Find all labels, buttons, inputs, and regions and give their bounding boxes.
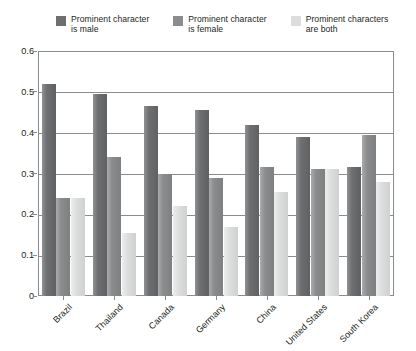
chart-legend: Prominent character is male Prominent ch… bbox=[56, 14, 408, 35]
bar-group bbox=[144, 51, 187, 296]
bar bbox=[144, 106, 158, 296]
x-tick-label: Canada bbox=[147, 302, 176, 331]
legend-item-male: Prominent character is male bbox=[56, 14, 173, 35]
x-tick-mark bbox=[216, 296, 217, 300]
bar bbox=[56, 198, 70, 296]
y-tick-mark bbox=[33, 173, 37, 174]
y-tick-label: 0 bbox=[2, 291, 34, 301]
y-tick-label: 0.2 bbox=[2, 209, 34, 219]
x-tick-label: China bbox=[254, 302, 278, 326]
bar bbox=[209, 178, 223, 296]
y-axis: 0.60.50.40.30.20.10 bbox=[0, 51, 34, 296]
legend-label-male: Prominent character is male bbox=[71, 14, 149, 35]
legend-swatch-female bbox=[173, 16, 183, 26]
bar bbox=[325, 169, 339, 296]
bar bbox=[376, 182, 390, 296]
bar-group bbox=[93, 51, 136, 296]
y-tick-label: 0.4 bbox=[2, 128, 34, 138]
bar bbox=[173, 206, 187, 296]
bar bbox=[71, 198, 85, 296]
x-tick-label: Thailand bbox=[94, 302, 125, 333]
x-tick-mark bbox=[165, 296, 166, 300]
bar bbox=[107, 157, 121, 296]
bar bbox=[122, 233, 136, 296]
x-tick-mark bbox=[63, 296, 64, 300]
legend-label-female: Prominent character is female bbox=[188, 14, 266, 35]
x-tick-label: Germany bbox=[194, 302, 227, 335]
legend-item-both: Prominent characters are both bbox=[291, 14, 408, 35]
bar bbox=[42, 84, 56, 296]
y-tick-label: 0.3 bbox=[2, 169, 34, 179]
legend-swatch-male bbox=[56, 16, 66, 26]
bar bbox=[224, 227, 238, 296]
x-tick-mark bbox=[114, 296, 115, 300]
y-tick-mark bbox=[33, 91, 37, 92]
bar bbox=[296, 137, 310, 296]
legend-label-both: Prominent characters are both bbox=[306, 14, 389, 35]
x-axis: BrazilThailandCanadaGermanyChinaUnited S… bbox=[38, 296, 394, 351]
y-tick-mark bbox=[33, 214, 37, 215]
bar bbox=[274, 192, 288, 296]
y-tick-label: 0.1 bbox=[2, 250, 34, 260]
x-tick-mark bbox=[267, 296, 268, 300]
y-tick-mark bbox=[33, 132, 37, 133]
bar bbox=[245, 125, 259, 297]
x-tick-label: Brazil bbox=[52, 302, 75, 325]
bar-group bbox=[42, 51, 85, 296]
y-tick-label: 0.5 bbox=[2, 87, 34, 97]
bar bbox=[158, 174, 172, 297]
x-tick-mark bbox=[369, 296, 370, 300]
bar bbox=[260, 167, 274, 296]
bar-group bbox=[296, 51, 339, 296]
bar bbox=[311, 169, 325, 296]
bar bbox=[195, 110, 209, 296]
bar bbox=[362, 135, 376, 296]
y-tick-mark bbox=[33, 255, 37, 256]
bar-series-layer bbox=[38, 51, 394, 296]
y-tick-mark bbox=[33, 296, 37, 297]
bar-group bbox=[347, 51, 390, 296]
legend-swatch-both bbox=[291, 16, 301, 26]
bar-group bbox=[195, 51, 238, 296]
legend-item-female: Prominent character is female bbox=[173, 14, 290, 35]
y-tick-label: 0.6 bbox=[2, 46, 34, 56]
x-tick-mark bbox=[318, 296, 319, 300]
bar-group bbox=[245, 51, 288, 296]
x-tick-label: United States bbox=[283, 302, 328, 347]
y-tick-mark bbox=[33, 51, 37, 52]
x-tick-label: South Korea bbox=[337, 302, 379, 344]
bar bbox=[93, 94, 107, 296]
bar bbox=[347, 167, 361, 296]
